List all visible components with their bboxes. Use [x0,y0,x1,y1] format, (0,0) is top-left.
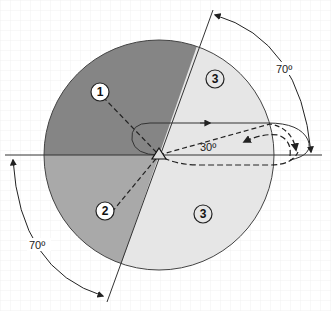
zone-2-label: 2 [102,204,109,218]
zone-1-label: 1 [97,85,104,99]
zone-1-badge: 1 [91,83,109,101]
zone-diagram: 70º 70º 30º 1 2 3 3 [0,0,331,311]
zone-2-badge: 2 [96,202,114,220]
angle-label-lower: 70º [29,239,45,251]
zone-3-upper-label: 3 [212,72,219,86]
angle-label-upper: 70º [276,63,292,75]
angle-label-path: 30º [200,141,216,153]
zone-3-lower-label: 3 [200,207,207,221]
